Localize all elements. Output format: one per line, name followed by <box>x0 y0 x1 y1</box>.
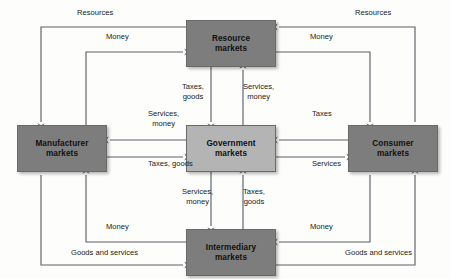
node-government-markets[interactable]: Governmentmarkets <box>186 125 276 172</box>
edge-label-services-money-government-to-manufacturer: Services,money <box>148 109 179 128</box>
edge-money-consumer-to-intermediary <box>272 175 370 246</box>
edge-label-money-consumer-to-intermediary: Money <box>310 222 333 231</box>
edge-label-taxes-goods-intermediary-to-government: Taxes,goods <box>243 187 265 206</box>
node-label-resource-markets-line-2: markets <box>215 44 247 54</box>
node-label-consumer-markets-line-1: Consumer <box>372 139 413 149</box>
edge-label-money-intermediary-to-manufacturer: Money <box>106 222 129 231</box>
edge-line-resources-consumer-to-resource <box>279 27 415 122</box>
node-label-government-markets-line-1: Government <box>206 139 255 149</box>
edge-label-resources-consumer-to-resource: Resources <box>355 8 391 17</box>
node-intermediary-markets[interactable]: Intermediarymarkets <box>186 229 276 276</box>
edge-label-resources-to-manufacturer: Resources <box>77 8 113 17</box>
edge-taxes-goods-resource-to-government <box>207 67 214 129</box>
edge-label-taxes-goods-manufacturer-to-government: Taxes, goods <box>148 159 193 168</box>
edge-services-money-government-to-manufacturer <box>103 136 186 143</box>
edge-label-services-money-government-to-resource: Services,money <box>243 82 274 101</box>
edge-line-money-consumer-to-intermediary <box>279 175 370 242</box>
node-label-manufacturer-markets-line-2: markets <box>46 149 78 159</box>
node-label-consumer-markets-line-2: markets <box>377 149 409 159</box>
node-manufacturer-markets[interactable]: Manufacturermarkets <box>17 125 107 172</box>
edge-line-money-intermediary-to-manufacturer <box>86 175 186 242</box>
edge-label-goods-services-manufacturer-to-intermediary: Goods and services <box>71 248 138 257</box>
edge-label-services-government-to-consumer: Services <box>312 159 341 168</box>
node-label-intermediary-markets-line-2: markets <box>215 253 247 263</box>
edge-resources-consumer-to-resource <box>272 23 415 122</box>
edge-money-intermediary-to-manufacturer <box>82 168 186 242</box>
node-resource-markets[interactable]: Resourcemarkets <box>186 20 276 67</box>
edge-label-money-resource-to-consumer: Money <box>310 32 333 41</box>
node-label-manufacturer-markets-line-1: Manufacturer <box>35 139 88 149</box>
edge-line-resources-to-manufacturer <box>41 27 186 122</box>
edge-label-services-money-government-to-intermediary: Services,money <box>182 187 213 206</box>
edge-label-money-manufacturer-to-resource: Money <box>106 32 129 41</box>
edge-label-taxes-goods-resource-to-government: Taxes,goods <box>182 82 204 101</box>
edge-taxes-consumer-to-government <box>272 136 348 143</box>
node-consumer-markets[interactable]: Consumermarkets <box>348 125 438 172</box>
market-flow-diagram: ResourcemarketsManufacturermarketsGovern… <box>0 0 451 279</box>
node-label-government-markets-line-2: markets <box>215 149 247 159</box>
edge-label-taxes-consumer-to-government: Taxes <box>312 109 332 118</box>
node-label-resource-markets-line-1: Resource <box>212 34 250 44</box>
edge-label-goods-services-intermediary-to-consumer: Goods and services <box>345 248 412 257</box>
node-label-intermediary-markets-line-1: Intermediary <box>206 243 256 253</box>
